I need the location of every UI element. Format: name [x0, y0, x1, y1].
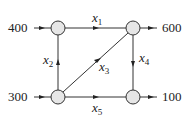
arrow-in-400-icon — [39, 26, 45, 30]
edge-label-x1: x1 — [91, 10, 102, 27]
node-bottom-left — [51, 90, 65, 104]
node-top-right — [126, 21, 140, 35]
arrow-x5-icon — [93, 95, 99, 99]
node-top-left — [51, 21, 65, 35]
flow-network-diagram: 400 600 300 100 x1 x2 x3 x4 x5 — [0, 0, 190, 119]
arrow-in-300-icon — [39, 95, 45, 99]
flow-label-300: 300 — [8, 89, 28, 104]
arrow-x2-icon — [56, 59, 60, 65]
arrow-x4-icon — [131, 61, 135, 67]
edge-label-x5: x5 — [91, 100, 103, 117]
edge-label-x2: x2 — [42, 52, 53, 69]
edge-x3 — [63, 33, 128, 92]
node-bottom-right — [126, 90, 140, 104]
arrow-out-100-icon — [148, 95, 154, 99]
flow-label-400: 400 — [8, 20, 28, 35]
flow-label-100: 100 — [162, 89, 182, 104]
flow-label-600: 600 — [162, 20, 182, 35]
arrow-out-600-icon — [148, 26, 154, 30]
edge-label-x4: x4 — [138, 50, 150, 67]
edge-label-x3: x3 — [98, 59, 110, 76]
